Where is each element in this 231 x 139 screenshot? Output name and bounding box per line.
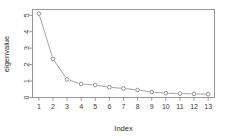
y-tick-label: 1 [23, 79, 30, 83]
x-tick-label: 6 [107, 103, 111, 110]
x-tick-label: 5 [93, 103, 97, 110]
x-tick-label: 11 [176, 103, 183, 110]
x-tick-label: 3 [65, 103, 69, 110]
x-tick-label: 10 [162, 103, 170, 110]
x-tick-label: 7 [122, 103, 126, 110]
x-tick-label: 8 [136, 103, 140, 110]
y-tick-label: 3 [23, 46, 30, 50]
x-tick-label: 12 [190, 103, 198, 110]
x-tick-label: 2 [51, 103, 55, 110]
x-axis-title: Index [114, 124, 133, 133]
x-tick-label: 1 [37, 103, 41, 110]
y-axis-title: eigenvalue [2, 36, 11, 72]
y-tick-label: 4 [23, 30, 30, 34]
x-tick-label: 13 [204, 103, 212, 110]
x-tick-label: 4 [79, 103, 83, 110]
scree-plot-figure: 012345 12345678910111213 Index eigenvalu… [0, 0, 231, 139]
y-tick-label: 2 [23, 63, 30, 67]
figure-background [0, 0, 231, 139]
plot-canvas: 012345 12345678910111213 Index eigenvalu… [0, 0, 231, 139]
x-tick-label: 9 [150, 103, 154, 110]
y-tick-label: 5 [23, 13, 30, 17]
y-tick-label: 0 [23, 95, 30, 99]
